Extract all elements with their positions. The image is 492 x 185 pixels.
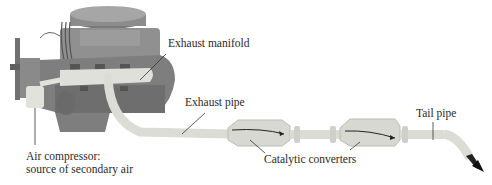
label-tail-pipe: Tail pipe bbox=[416, 107, 456, 120]
label-exhaust-pipe: Exhaust pipe bbox=[185, 96, 245, 109]
label-catalytic-converters: Catalytic converters bbox=[264, 153, 356, 166]
tail-pipe-shape bbox=[400, 126, 484, 172]
catalytic-converter-2 bbox=[340, 119, 400, 146]
catalytic-converter-1 bbox=[228, 120, 290, 146]
label-air-compressor: Air compressor: bbox=[26, 150, 100, 163]
label-secondary-air-source: source of secondary air bbox=[26, 163, 133, 176]
exhaust-system-diagram: Exhaust manifold Exhaust pipe Air compre… bbox=[0, 0, 492, 185]
label-exhaust-manifold: Exhaust manifold bbox=[168, 37, 249, 50]
